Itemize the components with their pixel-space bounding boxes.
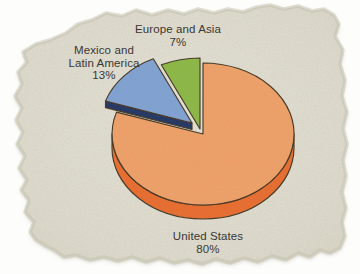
label-europe-and-asia-name: Europe and Asia xyxy=(135,23,221,36)
label-europe-and-asia-pct: 7% xyxy=(135,36,221,49)
label-mexico-line2: Latin America xyxy=(69,57,140,70)
label-united-states-name: United States xyxy=(173,230,243,243)
label-mexico-line1: Mexico and xyxy=(69,44,140,57)
figure-torn-paper-pie-chart: Europe and Asia 7% Mexico and Latin Amer… xyxy=(0,0,360,274)
label-europe-and-asia: Europe and Asia 7% xyxy=(135,23,221,48)
label-mexico-pct: 13% xyxy=(69,69,140,82)
label-united-states: United States 80% xyxy=(173,230,243,255)
label-united-states-pct: 80% xyxy=(173,243,243,256)
label-mexico-and-latin-america: Mexico and Latin America 13% xyxy=(69,44,140,82)
